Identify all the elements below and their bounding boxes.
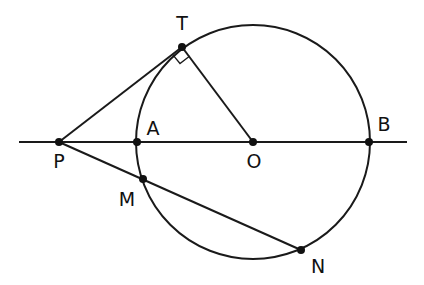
geometry-diagram: T P A O B M N: [0, 0, 424, 285]
label-A: A: [147, 117, 160, 139]
label-P: P: [53, 150, 64, 172]
point-P: [55, 138, 63, 146]
point-B: [365, 138, 373, 146]
label-T: T: [175, 12, 188, 34]
radius-OT: [182, 47, 253, 142]
point-M: [139, 175, 147, 183]
label-B: B: [377, 113, 390, 135]
point-A: [133, 138, 141, 146]
tangent-PT: [59, 47, 182, 142]
label-M: M: [119, 188, 135, 210]
point-T: [178, 43, 186, 51]
label-N: N: [311, 255, 325, 277]
point-N: [297, 246, 305, 254]
label-O: O: [247, 150, 262, 172]
point-O: [249, 138, 257, 146]
